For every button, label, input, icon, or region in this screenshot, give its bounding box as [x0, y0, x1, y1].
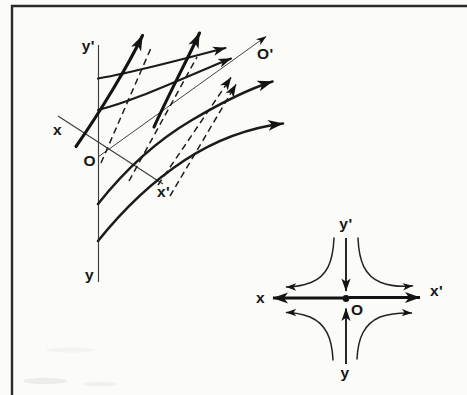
dashed-asymptote-2 — [129, 57, 197, 181]
oblique-saddle-diagram: y' y x x' O O' — [53, 33, 283, 283]
saddle-y-label: y — [340, 364, 349, 381]
page-frame-border — [12, 6, 467, 395]
left-y-prime-axis-label: y' — [82, 37, 95, 54]
standard-saddle-diagram: y' y x x' O — [256, 215, 443, 381]
saddle-origin-label: O — [351, 301, 364, 318]
saddle-x-label: x — [256, 289, 265, 306]
trajectory-lower-1 — [98, 82, 273, 205]
origin-prime-label: O' — [257, 45, 274, 62]
saddle-y-prime-label: y' — [339, 215, 352, 232]
left-x-prime-axis-label: x' — [157, 183, 170, 200]
saddle-x-prime-label: x' — [430, 282, 443, 299]
scanned-figure-page: y' y x x' O O' y' y x x' — [0, 0, 467, 395]
smudge-mark — [46, 347, 94, 352]
scan-artifacts — [23, 347, 117, 386]
saddle-trajectory-bottom-right — [357, 313, 412, 359]
trajectory-lower-2 — [98, 124, 283, 242]
left-y-axis-label: y — [85, 266, 94, 283]
left-x-axis — [58, 116, 163, 184]
separatrix-arrow-2 — [154, 33, 200, 127]
smudge-mark — [23, 378, 67, 384]
figure-svg: y' y x x' O O' y' y x x' — [0, 0, 467, 395]
saddle-equilibrium-point — [343, 295, 350, 302]
smudge-mark — [83, 382, 117, 387]
origin-to-origin-prime-line — [98, 37, 266, 158]
saddle-trajectory-bottom-left — [287, 313, 334, 361]
left-origin-label: O — [83, 152, 96, 169]
left-x-axis-label: x — [53, 121, 62, 138]
trajectory-upper-1 — [98, 48, 226, 79]
saddle-trajectory-top-left — [287, 238, 335, 287]
saddle-trajectory-top-right — [358, 238, 413, 286]
